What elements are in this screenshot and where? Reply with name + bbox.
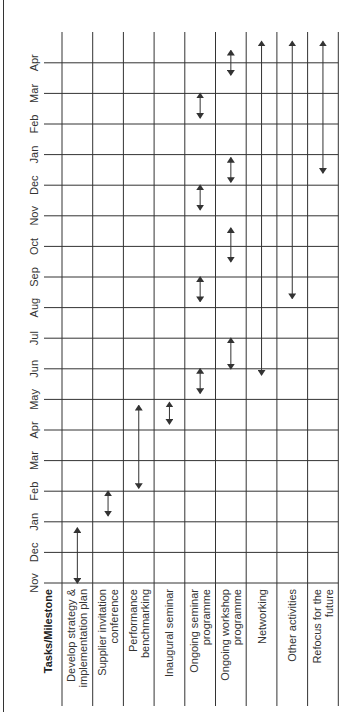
task-label-line: Other activities	[286, 589, 298, 662]
month-tick-label: Sep	[28, 267, 40, 287]
month-tick-label: Jan	[28, 513, 40, 531]
task-label-line: Inaugural seminar	[163, 589, 175, 677]
task-label: Develop strategy &implementation plan	[65, 588, 89, 687]
month-tick-label: Nov	[28, 206, 40, 226]
task-label: Refocus for thefuture	[311, 589, 335, 664]
task-label: Other activities	[286, 589, 298, 662]
month-tick-label: Jul	[28, 331, 40, 345]
task-label-line: Networking	[256, 589, 268, 644]
task-label-line: conference	[108, 589, 120, 643]
month-tick-label: May	[28, 389, 40, 410]
month-tick-label: Nov	[28, 573, 40, 593]
tasks-milestone-header: Tasks/Milestone	[42, 589, 54, 673]
task-label: Inaugural seminar	[163, 589, 175, 677]
month-tick-label: Feb	[28, 482, 40, 501]
month-tick-label: Feb	[28, 115, 40, 134]
month-tick-label: Jun	[28, 360, 40, 378]
task-label-line: Ongoing workshop	[219, 589, 231, 681]
task-label-line: implementation plan	[77, 589, 89, 687]
task-label: Supplier invitationconference	[96, 589, 120, 676]
task-label: Performancebenchmarking	[127, 589, 151, 658]
task-label: Networking	[256, 589, 268, 644]
task-label-line: Ongoing seminar	[188, 589, 200, 673]
month-tick-label: Dec	[28, 542, 40, 562]
task-label-line: benchmarking	[139, 589, 151, 658]
month-tick-label: Oct	[28, 238, 40, 255]
task-label: Ongoing workshopprogramme	[219, 589, 243, 681]
task-label-line: Performance	[127, 589, 139, 652]
month-tick-label: Dec	[28, 175, 40, 195]
month-tick-label: Aug	[28, 298, 40, 318]
month-tick-label: Apr	[28, 421, 40, 438]
task-label-line: programme	[200, 589, 212, 645]
task-label-line: Refocus for the	[311, 589, 323, 664]
task-label-line: programme	[231, 589, 243, 645]
month-tick-label: Apr	[28, 54, 40, 71]
task-label: Ongoing seminarprogramme	[188, 589, 212, 673]
month-tick-label: Mar	[28, 84, 40, 103]
task-label-line: Supplier invitation	[96, 589, 108, 676]
gantt-chart: NovDecJanFebMarAprMayJunJulAugSepOctNovD…	[0, 0, 362, 718]
task-label-line: future	[323, 589, 335, 617]
month-tick-label: Jan	[28, 146, 40, 164]
task-label-line: Develop strategy &	[65, 588, 77, 682]
month-tick-label: Mar	[28, 451, 40, 470]
